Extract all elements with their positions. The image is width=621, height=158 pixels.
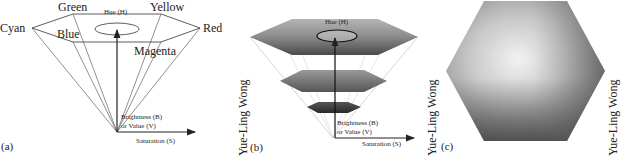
panel-label-c: (c): [441, 140, 454, 153]
label-cyan: Cyan: [0, 21, 25, 35]
credit-label: Yue-Ling Wong: [236, 80, 251, 156]
label-yellow: Yellow: [150, 0, 184, 14]
hue-circle-icon: [317, 30, 357, 42]
label-hue-b: Hue (H): [325, 18, 349, 26]
panel-label-b: (b): [250, 141, 263, 154]
label-blue: Blue: [57, 27, 80, 41]
label-hue-a: Hue (H): [104, 8, 128, 16]
panel-label-a: (a): [1, 140, 14, 153]
label-red: Red: [203, 21, 222, 35]
label-brightness-b: Brightness (B): [337, 119, 379, 127]
label-brightness-a: Brightness (B): [121, 113, 163, 121]
panel-b-hexcone-solid: [250, 19, 418, 138]
label-value-a: or Value (V): [121, 122, 157, 130]
hex-mid-layer: [280, 70, 387, 92]
credit-label: Yue-Ling Wong: [606, 80, 621, 156]
label-saturation-a: Saturation (S): [136, 137, 176, 145]
label-magenta: Magenta: [134, 44, 177, 58]
hex-low-layer: [307, 102, 361, 113]
label-value-b: or Value (V): [337, 128, 373, 136]
label-saturation-b: Saturation (S): [362, 140, 402, 148]
credit-label: Yue-Ling Wong: [425, 80, 440, 156]
panel-c-hexagon: [446, 1, 605, 141]
label-green: Green: [58, 0, 87, 14]
